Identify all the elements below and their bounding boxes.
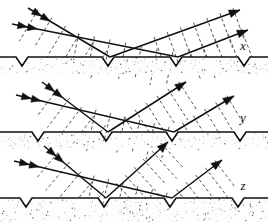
panel-z-stipple-dot xyxy=(62,200,64,202)
panel-y-stipple-dot xyxy=(91,146,92,147)
panel-y-stipple-dot xyxy=(14,142,15,143)
panel-y-stipple-dot xyxy=(245,145,246,146)
panel-x-stipple-dot xyxy=(134,64,135,65)
panel-y-stipple-dot xyxy=(13,148,14,149)
panel-y-stipple-dot xyxy=(24,137,25,138)
panel-x-stipple-dot xyxy=(28,63,29,64)
panel-y-stipple-dot xyxy=(59,142,60,143)
panel-z-stipple-dot xyxy=(9,221,10,222)
panel-z-incident-wavefront-0-3 xyxy=(46,162,70,190)
panel-x-stipple-dot xyxy=(203,58,204,59)
panel-z-stipple-dot xyxy=(167,209,169,211)
panel-z-stipple-dot xyxy=(185,203,186,204)
panel-y-stipple-dot xyxy=(169,148,170,149)
panel-x-stipple-dot xyxy=(204,69,206,71)
panel-x-stipple-dot xyxy=(71,59,73,61)
panel-z-ground-fill xyxy=(0,198,268,222)
panel-z-stipple-dot xyxy=(128,220,129,221)
panel-z-stipple-dot xyxy=(224,200,225,201)
panel-x-stipple-dot xyxy=(250,73,251,74)
panel-z-stipple-dot xyxy=(230,209,231,210)
panel-x-reflected-wavefront-0-3 xyxy=(194,23,207,58)
panel-z-stipple-dot xyxy=(261,218,262,219)
panel-y-incident-ray-1-arrowhead-1 xyxy=(31,95,42,102)
panel-z-stipple-dot xyxy=(203,213,204,214)
panel-z-label: z xyxy=(239,178,245,193)
panel-x-stipple-dot xyxy=(96,59,97,60)
panel-z-stipple-dot xyxy=(18,201,19,202)
panel-y-stipple-dot xyxy=(132,148,133,149)
panel-y-stipple-dot xyxy=(77,139,78,140)
panel-z-incident-wavefront-0-4 xyxy=(36,153,58,179)
panel-x-stipple-dot xyxy=(238,70,240,72)
panel-y-stipple-dot xyxy=(215,138,216,139)
panel-y-reflected-wavefront-1-1 xyxy=(216,102,235,134)
panel-y-stipple-dot xyxy=(214,143,215,144)
panel-z-stipple-dot xyxy=(260,218,261,219)
panel-z-stipple-dot xyxy=(250,211,251,212)
panel-x-stipple-dot xyxy=(185,60,186,61)
panel-y-stipple-dot xyxy=(120,133,121,134)
panel-z-stipple-dot xyxy=(3,210,4,212)
panel-y-stipple-dot xyxy=(8,139,9,140)
panel-y-stipple-dot xyxy=(87,145,88,146)
panel-z-stipple-dot xyxy=(42,207,43,208)
panel-z-stipple-dot xyxy=(209,218,210,219)
panel-z-stipple-dot xyxy=(130,206,131,207)
panel-z-stipple-dot xyxy=(160,212,161,213)
panel-x-incident-wavefront-0-4 xyxy=(35,18,52,47)
panel-z-stipple-dot xyxy=(95,205,96,206)
panel-z-stipple-dot xyxy=(194,199,195,200)
panel-x-stipple-dot xyxy=(260,69,261,70)
panel-y-stipple-dot xyxy=(83,134,84,135)
panel-z: z xyxy=(0,142,268,222)
panel-z-stipple-dot xyxy=(212,207,213,208)
panel-y-stipple-dot xyxy=(71,135,73,137)
panel-z-stipple-dot xyxy=(265,201,266,202)
panel-z-stipple-dot xyxy=(137,213,138,214)
panel-z-stipple-dot xyxy=(235,214,236,215)
panel-x-stipple-dot xyxy=(265,64,266,65)
panel-z-stipple-dot xyxy=(231,200,232,201)
panel-x-stipple-dot xyxy=(262,68,263,69)
panel-y-stipple-dot xyxy=(144,142,145,143)
panel-z-stipple-dot xyxy=(36,209,38,211)
panel-z-stipple-dot xyxy=(11,219,12,220)
panel-z-stipple-dot xyxy=(198,219,199,220)
panel-y-stipple-dot xyxy=(62,133,64,135)
panel-z-stipple-dot xyxy=(181,217,182,218)
panel-z-stipple-dot xyxy=(217,209,218,210)
panel-x-stipple-dot xyxy=(153,72,154,73)
panel-y-stipple-dot xyxy=(48,146,49,147)
panel-x-stipple-dot xyxy=(125,71,127,73)
panel-z-stipple-dot xyxy=(106,214,107,215)
panel-z-stipple-dot xyxy=(177,214,178,215)
panel-z-stipple-dot xyxy=(212,210,213,211)
panel-x-stipple-dot xyxy=(219,60,221,62)
panel-z-stipple-dot xyxy=(44,218,45,219)
panel-z-stipple-dot xyxy=(205,213,207,215)
panel-y-stipple-dot xyxy=(151,146,153,148)
panel-z-stipple-dot xyxy=(156,205,157,206)
panel-y-stipple-dot xyxy=(128,139,129,140)
panel-y-reflected-wavefront-0-1 xyxy=(168,89,188,120)
panel-x-stipple-dot xyxy=(237,61,239,63)
panel-z-stipple-dot xyxy=(107,206,108,207)
panel-y-stipple-dot xyxy=(172,144,173,145)
panel-z-stipple-dot xyxy=(102,214,103,215)
panel-x-incident-wavefront-0-3 xyxy=(47,26,66,58)
panel-z-stipple-dot xyxy=(159,210,160,211)
panel-y-stipple-dot xyxy=(89,137,90,138)
panel-y-stipple-dot xyxy=(73,134,74,135)
panel-x-stipple-dot xyxy=(27,71,28,72)
panel-x-stipple-dot xyxy=(2,73,3,74)
panel-z-stipple-dot xyxy=(123,207,125,209)
panel-z-stipple-dot xyxy=(142,210,143,211)
panel-x-stipple-dot xyxy=(180,64,181,65)
panel-z-stipple-dot xyxy=(136,202,137,203)
panel-z-stipple-dot xyxy=(147,207,148,208)
panel-y-stipple-dot xyxy=(59,135,60,136)
panel-z-stipple-dot xyxy=(243,204,244,205)
panel-y-stipple-dot xyxy=(219,133,220,134)
panel-y-stipple-dot xyxy=(263,134,264,135)
